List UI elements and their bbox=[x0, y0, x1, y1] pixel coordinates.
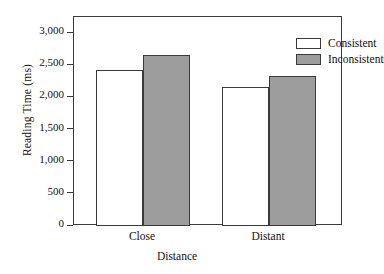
plot-area: Consistent Inconsistent bbox=[73, 16, 342, 225]
x-tick-label-close: Close bbox=[129, 230, 155, 242]
y-tick-label: 500 bbox=[48, 185, 65, 197]
legend-item: Inconsistent bbox=[296, 52, 384, 66]
x-axis-title: Distance bbox=[0, 250, 354, 262]
bar-close-inconsistent bbox=[143, 55, 190, 226]
bar-close-consistent bbox=[96, 70, 143, 226]
legend-item: Consistent bbox=[296, 36, 384, 50]
y-tick-label: 1,500 bbox=[39, 121, 64, 133]
y-tick-label: 2,500 bbox=[39, 56, 64, 68]
legend-swatch-inconsistent bbox=[296, 54, 321, 65]
y-tick-label: 3,000 bbox=[39, 24, 64, 36]
y-tick-label: 2,000 bbox=[39, 88, 64, 100]
legend-label-consistent: Consistent bbox=[328, 37, 377, 49]
chart-legend: Consistent Inconsistent bbox=[296, 36, 384, 68]
legend-label-inconsistent: Inconsistent bbox=[328, 53, 384, 65]
y-tick-label: 1,000 bbox=[39, 153, 64, 165]
legend-swatch-consistent bbox=[296, 38, 321, 49]
y-tick-label: 0 bbox=[59, 217, 65, 229]
bar-distant-consistent bbox=[222, 87, 269, 226]
bar-distant-inconsistent bbox=[269, 76, 316, 226]
x-tick-label-distant: Distant bbox=[251, 230, 284, 242]
y-axis-title: Reading Time (ms) bbox=[21, 35, 33, 185]
